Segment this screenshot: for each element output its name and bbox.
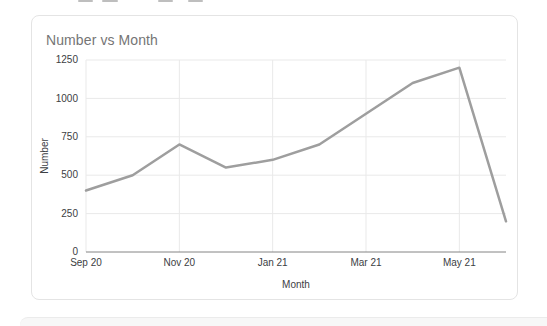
cropped-text-artifact bbox=[188, 0, 203, 2]
chart-card: Number vs Month bbox=[31, 15, 518, 300]
cropped-text-artifact bbox=[102, 0, 118, 2]
page: Number vs Month 025050075010001250Sep 20… bbox=[0, 0, 547, 326]
next-card-edge bbox=[20, 317, 547, 326]
cropped-text-artifact bbox=[158, 0, 173, 2]
cropped-text-artifact bbox=[78, 0, 93, 2]
chart-title: Number vs Month bbox=[46, 31, 158, 49]
